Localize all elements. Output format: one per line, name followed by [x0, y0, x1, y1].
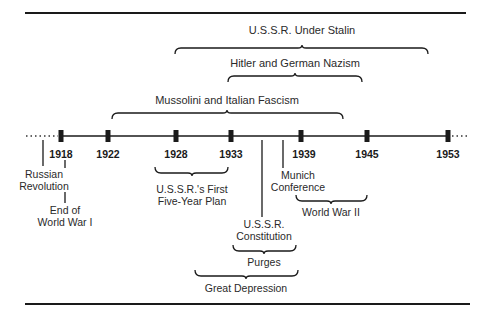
label-line: U.S.S.R.'s First	[156, 183, 227, 195]
label-constitution: U.S.S.R. Constitution	[236, 218, 291, 242]
bracket-five-year-plan	[155, 167, 228, 176]
year-1953: 1953	[436, 148, 459, 160]
label-end-ww1: End of World War I	[38, 204, 93, 228]
label-line: Munich	[271, 169, 325, 181]
label-five-year-plan: U.S.S.R.'s First Five-Year Plan	[156, 183, 227, 207]
year-1922: 1922	[96, 148, 119, 160]
label-stalin: U.S.S.R. Under Stalin	[249, 24, 355, 36]
label-line: Constitution	[236, 230, 291, 242]
year-1945: 1945	[355, 148, 378, 160]
label-line: End of	[38, 204, 93, 216]
label-mussolini: Mussolini and Italian Fascism	[155, 94, 299, 106]
label-line: Russian	[19, 168, 69, 180]
bracket-stalin	[175, 45, 428, 54]
bracket-purges	[233, 245, 296, 254]
label-line: World War I	[38, 216, 93, 228]
year-1933: 1933	[219, 148, 242, 160]
label-line: U.S.S.R.	[236, 218, 291, 230]
year-1928: 1928	[164, 148, 187, 160]
bracket-hitler	[228, 73, 362, 82]
label-line: Revolution	[19, 180, 69, 192]
bracket-ww2	[296, 195, 367, 204]
bracket-great-depression	[195, 270, 298, 279]
label-ww2: World War II	[302, 206, 360, 218]
label-hitler: Hitler and German Nazism	[230, 57, 360, 69]
year-1939: 1939	[292, 148, 315, 160]
year-1918: 1918	[49, 148, 72, 160]
label-munich: Munich Conference	[271, 169, 325, 193]
label-line: Conference	[271, 181, 325, 193]
label-purges: Purges	[247, 256, 280, 268]
label-great-depression: Great Depression	[205, 282, 287, 294]
label-russian-revolution: Russian Revolution	[19, 168, 69, 192]
label-line: Five-Year Plan	[156, 195, 227, 207]
timeline-graphics	[0, 0, 489, 314]
bracket-mussolini	[112, 110, 343, 119]
